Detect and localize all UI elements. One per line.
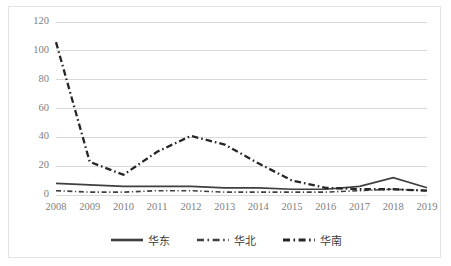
y-tick-label: 120 [9, 15, 49, 26]
x-tick-label: 2011 [139, 201, 175, 212]
chart-container: 020406080100120 200820092010201120122013… [8, 6, 441, 258]
legend-item-0[interactable]: 华东 [110, 232, 170, 248]
x-tick-label: 2012 [173, 201, 209, 212]
y-tick-label: 20 [9, 159, 49, 170]
x-tick-label: 2013 [207, 201, 243, 212]
chart-legend: 华东 华北 华南 [0, 228, 451, 252]
legend-label-2: 华南 [320, 232, 342, 248]
x-tick-label: 2008 [38, 201, 74, 212]
x-tick-label: 2015 [274, 201, 310, 212]
y-tick-label: 100 [9, 44, 49, 55]
y-tick-label: 40 [9, 130, 49, 141]
legend-swatch-dashdot-icon [196, 235, 230, 245]
x-tick-label: 2010 [105, 201, 141, 212]
legend-swatch-solid-icon [110, 235, 144, 245]
legend-swatch-dashdot-bold-icon [282, 235, 316, 245]
legend-label-0: 华东 [148, 232, 170, 248]
y-tick-label: 60 [9, 102, 49, 113]
y-tick-label: 0 [9, 188, 49, 199]
legend-item-2[interactable]: 华南 [282, 232, 342, 248]
series-line-0 [56, 178, 427, 190]
x-tick-label: 2014 [240, 201, 276, 212]
y-tick-label: 80 [9, 73, 49, 84]
x-tick-label: 2016 [308, 201, 344, 212]
x-tick-label: 2019 [409, 201, 445, 212]
series-line-2 [56, 42, 427, 191]
x-tick-label: 2017 [342, 201, 378, 212]
series-lines-group [56, 42, 427, 192]
legend-label-1: 华北 [234, 232, 256, 248]
x-tick-label: 2009 [72, 201, 108, 212]
chart-plot-area [9, 7, 440, 257]
series-line-1 [56, 189, 427, 192]
legend-item-1[interactable]: 华北 [196, 232, 256, 248]
x-tick-label: 2018 [375, 201, 411, 212]
